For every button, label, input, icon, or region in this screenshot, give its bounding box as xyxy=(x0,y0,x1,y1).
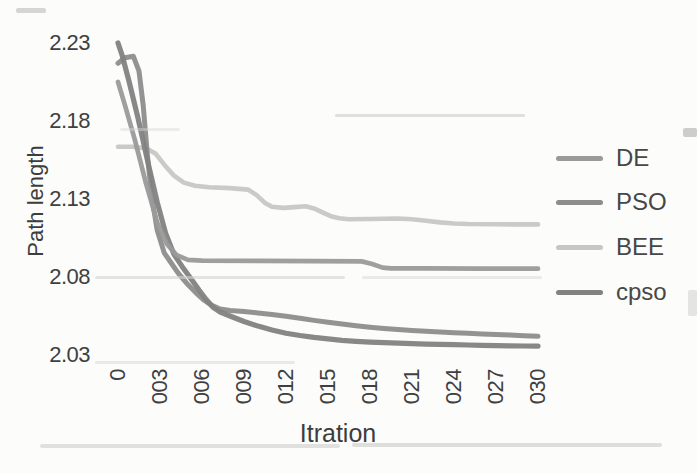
x-tick-label: 027 xyxy=(485,369,507,404)
series-line-cpso xyxy=(118,43,538,346)
legend-line-swatch xyxy=(556,200,603,205)
y-tick-label: 2.13 xyxy=(18,188,90,210)
y-tick-label: 2.23 xyxy=(18,32,90,54)
legend-line-swatch xyxy=(556,245,603,250)
x-axis-title: Itration xyxy=(300,419,376,448)
line-chart-figure: Path length Itration 2.232.182.132.082.0… xyxy=(0,0,697,473)
legend-item-cpso: cpso xyxy=(556,280,667,304)
y-tick-label: 2.08 xyxy=(18,266,90,288)
x-tick-label: 015 xyxy=(317,369,339,404)
x-tick-label: 030 xyxy=(527,369,549,404)
legend-label: cpso xyxy=(616,280,667,304)
series-line-DE xyxy=(118,82,538,269)
x-tick-label: 018 xyxy=(359,369,381,404)
x-tick-label: 021 xyxy=(401,369,423,404)
x-tick-label: 006 xyxy=(191,369,213,404)
legend-item-PSO: PSO xyxy=(556,190,667,214)
legend-label: PSO xyxy=(616,190,667,214)
series-line-PSO xyxy=(118,56,538,336)
y-tick-label: 2.03 xyxy=(18,344,90,366)
legend-item-DE: DE xyxy=(556,146,649,170)
legend-line-swatch xyxy=(556,290,603,295)
x-tick-label: 009 xyxy=(233,369,255,404)
x-tick-label: 024 xyxy=(443,369,465,404)
legend-item-BEE: BEE xyxy=(556,235,664,259)
x-tick-label: 012 xyxy=(275,369,297,404)
legend-line-swatch xyxy=(556,156,603,161)
y-tick-label: 2.18 xyxy=(18,110,90,132)
x-tick-label: 0 xyxy=(107,369,129,381)
legend-label: BEE xyxy=(616,235,664,259)
x-tick-label: 003 xyxy=(149,369,171,404)
series-line-BEE xyxy=(118,147,538,225)
legend-label: DE xyxy=(616,146,649,170)
